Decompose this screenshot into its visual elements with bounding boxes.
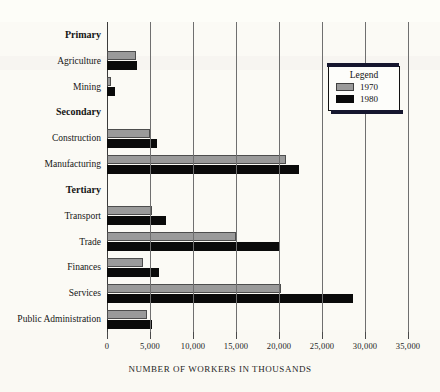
gridline	[408, 22, 409, 332]
legend-label-1970: 1970	[360, 82, 378, 92]
bar-1980	[107, 165, 299, 174]
gridline	[236, 22, 237, 332]
bar-1980	[107, 216, 166, 225]
x-tick	[408, 332, 409, 339]
bar-1980	[107, 87, 115, 96]
x-tick	[365, 332, 366, 339]
bar-1980	[107, 294, 353, 303]
bar-1970	[107, 206, 152, 215]
bar-1970	[107, 232, 236, 241]
legend-swatch-1970	[336, 83, 354, 91]
legend-entry-1980: 1980	[336, 94, 399, 104]
group-label: Primary	[2, 30, 105, 40]
legend-box: Legend 1970 1980	[328, 66, 400, 111]
legend-swatch-1980	[336, 95, 354, 103]
bar-1970	[107, 155, 286, 164]
group-label: Secondary	[2, 107, 105, 117]
x-tick	[279, 332, 280, 339]
legend-shadow-top	[327, 63, 399, 67]
gridline	[150, 22, 151, 332]
category-label: Public Administration	[2, 314, 105, 324]
legend-title: Legend	[329, 70, 399, 80]
bar-1970	[107, 258, 143, 267]
category-label: Agriculture	[2, 56, 105, 66]
gridline	[322, 22, 323, 332]
category-label: Finances	[2, 262, 105, 272]
x-tick	[107, 332, 108, 339]
bar-1970	[107, 51, 136, 60]
scan-band-top	[0, 0, 440, 22]
gridline	[193, 22, 194, 332]
x-tick	[322, 332, 323, 339]
category-label: Construction	[2, 133, 105, 143]
bar-1980	[107, 320, 152, 329]
bar-1980	[107, 61, 137, 70]
category-label: Mining	[2, 82, 105, 92]
gridline	[279, 22, 280, 332]
bar-1970	[107, 310, 147, 319]
group-label: Tertiary	[2, 185, 105, 195]
x-tick	[236, 332, 237, 339]
legend-shadow-bottom	[331, 110, 403, 114]
x-tick-label: 35,000	[378, 341, 438, 351]
bar-1970	[107, 77, 111, 86]
category-label: Transport	[2, 211, 105, 221]
bar-1970	[107, 129, 150, 138]
x-axis-title: NUMBER OF WORKERS IN THOUSANDS	[0, 364, 440, 374]
category-label: Trade	[2, 237, 105, 247]
x-tick	[193, 332, 194, 339]
category-label: Services	[2, 288, 105, 298]
x-tick	[150, 332, 151, 339]
legend-label-1980: 1980	[360, 94, 378, 104]
scan-band-bottom	[0, 330, 440, 392]
category-label: Manufacturing	[2, 159, 105, 169]
legend-entry-1970: 1970	[336, 82, 399, 92]
